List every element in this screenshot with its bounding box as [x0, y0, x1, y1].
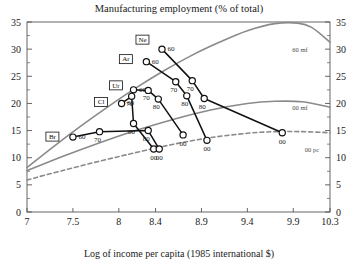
data-point [145, 87, 151, 93]
country-label-text: Ur [112, 82, 120, 90]
x-tick-label: 7 [25, 216, 30, 227]
data-point-decade-label: 60 [152, 58, 160, 66]
data-point [143, 59, 149, 65]
data-point [173, 79, 179, 85]
data-point-decade-label: 80 [181, 100, 189, 108]
y-tick-label-right: 20 [336, 98, 346, 109]
data-point-decade-label: 70 [94, 136, 102, 144]
reference-curve-label: 00 pc [305, 146, 319, 153]
data-point [156, 146, 162, 152]
y-tick-label-left: 15 [11, 125, 21, 136]
x-axis-label: Log of income per capita (1985 internati… [84, 248, 274, 260]
data-point-decade-label: 70 [187, 85, 195, 93]
y-tick-label-left: 10 [11, 152, 21, 163]
data-point-decade-label: 80 [153, 103, 161, 111]
x-tick-label: 7.5 [67, 216, 80, 227]
y-tick-label-right: 10 [336, 152, 346, 163]
y-tick-label-right: 5 [336, 179, 341, 190]
data-point [96, 129, 102, 135]
data-point-decade-label: 70 [170, 86, 178, 94]
data-point [155, 96, 161, 102]
data-point-decade-label: 00 [203, 145, 211, 153]
x-tick-label: 8.4 [149, 216, 162, 227]
data-point [129, 93, 135, 99]
data-point [159, 46, 165, 52]
x-tick-label: 9.9 [287, 216, 300, 227]
x-tick-label: 8.9 [195, 216, 208, 227]
data-point-decade-label: 00 [156, 154, 164, 162]
data-point-decade-label: 60 [167, 45, 175, 53]
data-point [184, 93, 190, 99]
data-point-decade-label: 70 [143, 94, 151, 102]
country-label-text: Br [49, 133, 57, 141]
reference-curve-label: 00 mf [292, 104, 308, 111]
y-tick-label-right: 15 [336, 125, 346, 136]
data-point-decade-label: 60 [78, 133, 86, 141]
reference-curve-label: 60 mf [292, 46, 308, 53]
y-tick-label-left: 0 [16, 207, 21, 218]
data-point [279, 130, 285, 136]
data-point-decade-label: 70 [126, 100, 134, 108]
data-point [180, 132, 186, 138]
y-tick-label-right: 25 [336, 71, 346, 82]
y-tick-label-left: 35 [11, 17, 21, 28]
chart-title: Manufacturing employment (% of total) [95, 3, 264, 15]
x-tick-label: 10.3 [321, 216, 339, 227]
country-label-text: Cl [98, 98, 105, 106]
chart-canvas: Manufacturing employment (% of total) 77… [0, 0, 358, 263]
y-tick-label-right: 0 [336, 207, 341, 218]
y-tick-label-left: 20 [11, 98, 21, 109]
data-point [70, 134, 76, 140]
data-point [204, 137, 210, 143]
chart-figure: Manufacturing employment (% of total) 77… [0, 0, 358, 263]
data-point [201, 95, 207, 101]
data-point [189, 78, 195, 84]
data-point-decade-label: 80 [143, 135, 151, 143]
country-label-text: Ne [138, 36, 146, 44]
y-tick-label-left: 25 [11, 71, 21, 82]
country-label-text: Ar [122, 55, 130, 63]
x-tick-label: 8 [116, 216, 121, 227]
data-point-decade-label: 00 [279, 138, 287, 146]
data-point [130, 87, 136, 93]
y-tick-label-right: 30 [336, 44, 346, 55]
data-point [130, 120, 136, 126]
y-tick-label-right: 35 [336, 17, 346, 28]
x-tick-label: 9.4 [241, 216, 254, 227]
data-point [145, 127, 151, 133]
data-point-decade-label: 80 [199, 103, 207, 111]
y-tick-label-left: 30 [11, 44, 21, 55]
data-point-decade-label: 00 [180, 140, 188, 148]
data-point [118, 100, 124, 106]
y-tick-label-left: 5 [16, 179, 21, 190]
